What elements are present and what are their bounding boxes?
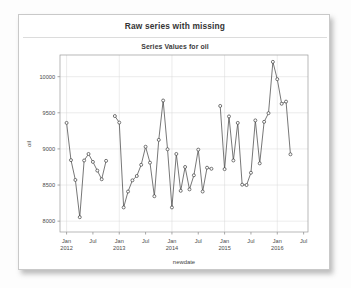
line-chart-svg: 800085009000950010000 Jan2012JulJan2013J… (18, 14, 330, 270)
data-point (223, 168, 226, 171)
x-tick-label: Jul (300, 238, 307, 244)
data-point (236, 121, 239, 124)
data-point (140, 163, 143, 166)
screenshot-root: Raw series with missing Series Values fo… (0, 0, 351, 288)
data-point (188, 188, 191, 191)
x-tick-label: 2015 (218, 245, 230, 251)
y-axis-title: oil (26, 141, 32, 147)
data-point (197, 148, 200, 151)
data-point (118, 121, 121, 124)
data-point (96, 169, 99, 172)
data-point (254, 119, 257, 122)
data-point (100, 178, 103, 181)
data-point (105, 159, 108, 162)
data-point (153, 195, 156, 198)
data-point (175, 152, 178, 155)
y-tick-label: 9000 (43, 146, 55, 152)
data-point (65, 121, 68, 124)
x-tick-label: 2013 (113, 245, 125, 251)
y-tick-label: 9500 (43, 110, 55, 116)
chart-y-tickmarks (58, 77, 61, 221)
data-point (144, 145, 147, 148)
data-point (201, 190, 204, 193)
x-tick-label: Jul (142, 238, 149, 244)
x-tick-label: Jul (89, 238, 96, 244)
data-point (219, 104, 222, 107)
data-point (113, 115, 116, 118)
data-point (249, 171, 252, 174)
data-point (184, 165, 187, 168)
x-tick-label: 2014 (166, 245, 178, 251)
y-tick-label: 8000 (43, 218, 55, 224)
chart-gridlines (60, 55, 308, 232)
data-point (87, 152, 90, 155)
x-tick-label: 2012 (60, 245, 72, 251)
data-point (179, 189, 182, 192)
data-point (232, 159, 235, 162)
data-point (148, 161, 151, 164)
x-tick-label: Jan (273, 238, 282, 244)
chart-x-tickmarks (67, 232, 304, 235)
x-tick-label: Jul (247, 238, 254, 244)
chart-x-tick-labels: Jan2012JulJan2013JulJan2014JulJan2015Jul… (60, 238, 307, 251)
data-point (83, 159, 86, 162)
data-point (157, 138, 160, 141)
chart-y-tick-labels: 800085009000950010000 (39, 74, 55, 224)
chart-frame (60, 55, 308, 232)
data-point (241, 183, 244, 186)
data-point (289, 153, 292, 156)
data-point (127, 190, 130, 193)
data-point (74, 178, 77, 181)
data-point (276, 78, 279, 81)
data-point (166, 148, 169, 151)
chart-plot-area: 800085009000950010000 Jan2012JulJan2013J… (18, 14, 330, 270)
data-point (285, 100, 288, 103)
data-point (78, 216, 81, 219)
data-point (267, 112, 270, 115)
data-point (206, 166, 209, 169)
x-tick-label: Jan (220, 238, 229, 244)
data-point (135, 175, 138, 178)
x-tick-label: Jan (62, 238, 71, 244)
data-point (263, 120, 266, 123)
data-point (192, 174, 195, 177)
x-tick-label: 2016 (271, 245, 283, 251)
data-point (227, 115, 230, 118)
x-tick-label: Jul (195, 238, 202, 244)
x-tick-label: Jan (167, 238, 176, 244)
data-point (280, 102, 283, 105)
data-point (122, 206, 125, 209)
data-point (258, 162, 261, 165)
y-tick-label: 8500 (43, 182, 55, 188)
x-axis-title: newdate (173, 259, 196, 265)
data-point (91, 160, 94, 163)
data-point (210, 167, 213, 170)
data-point (271, 60, 274, 63)
data-point (162, 99, 165, 102)
series-markers-oil (65, 60, 292, 218)
data-point (245, 184, 248, 187)
data-point (131, 179, 134, 182)
data-point (170, 206, 173, 209)
data-point (69, 159, 72, 162)
x-tick-label: Jan (115, 238, 124, 244)
series-line-oil (67, 62, 291, 217)
y-tick-label: 10000 (39, 74, 55, 80)
